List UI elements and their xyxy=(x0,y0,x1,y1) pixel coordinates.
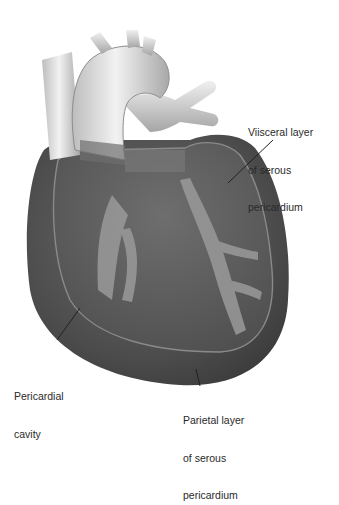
label-pericardial-cavity: Pericardial cavity xyxy=(14,365,64,453)
label-visceral-layer: Viisceral layer of serous pericardium xyxy=(248,101,313,226)
label-parietal-layer: Parietal layer of serous pericardium xyxy=(183,389,244,505)
